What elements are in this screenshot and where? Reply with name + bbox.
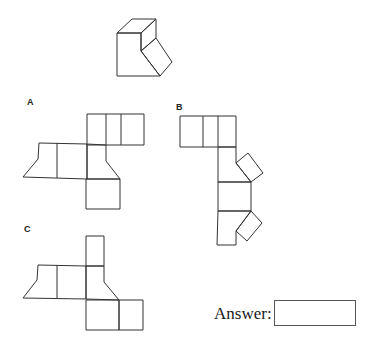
- net-c-bottom-left-square: [86, 300, 119, 330]
- net-c-top-rect: [86, 236, 104, 266]
- net-c-left-row: [23, 265, 86, 299]
- net-b-middle-square: [218, 182, 251, 211]
- net-a-top-row: [87, 114, 144, 145]
- option-a-net[interactable]: [23, 114, 144, 209]
- puzzle-canvas: A B C: [0, 0, 380, 345]
- option-c-label: C: [24, 224, 31, 234]
- option-b-label: B: [176, 102, 183, 112]
- solid-side-face: [141, 19, 156, 51]
- answer-input[interactable]: [274, 300, 356, 326]
- net-a-bottom-square: [86, 179, 120, 209]
- option-c-net[interactable]: [23, 236, 143, 330]
- net-a-center: [87, 144, 120, 179]
- net-c-center: [86, 266, 119, 300]
- net-c-bottom-right-square: [119, 300, 143, 330]
- net-b-upper-tilted: [236, 153, 263, 182]
- net-b-top-row: [180, 116, 236, 147]
- net-b-lower-tilted: [236, 211, 262, 241]
- solid-top-face: [117, 19, 156, 33]
- net-b-upper-column: [218, 147, 251, 182]
- option-a-label: A: [27, 97, 34, 107]
- solid-slanted-face: [141, 38, 172, 76]
- solid-front-face: [117, 33, 160, 76]
- net-a-left-row: [23, 143, 87, 179]
- solid-figure: [117, 19, 172, 76]
- option-b-net[interactable]: [180, 116, 263, 245]
- answer-label: Answer:: [214, 304, 272, 324]
